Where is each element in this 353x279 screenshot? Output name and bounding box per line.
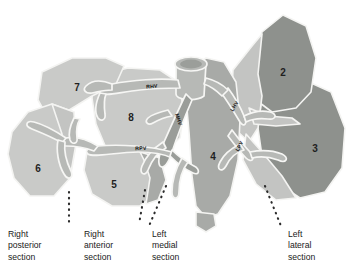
- right-portal-vein-label: RPV: [135, 145, 147, 152]
- segment-6-shape: [8, 104, 76, 196]
- segment-label-5: 5: [111, 179, 117, 190]
- liver-anatomy-figure: .lt { fill:#c9cac8; stroke:#f4f4f2; stro…: [0, 0, 353, 279]
- segment-label-7: 7: [74, 82, 80, 93]
- caption-left-medial-section: Left medial section: [152, 229, 179, 263]
- segment-label-3: 3: [312, 143, 318, 154]
- segment-label-8: 8: [128, 112, 134, 123]
- caption-left-lateral-section: Left lateral section: [288, 229, 315, 263]
- caption-right-anterior-section: Right anterior section: [84, 229, 113, 263]
- right-hepatic-vein-label: RHV: [146, 83, 158, 90]
- segment-label-6: 6: [35, 163, 41, 174]
- segment-label-4: 4: [210, 151, 216, 162]
- caption-right-posterior-section: Right posterior section: [8, 229, 41, 263]
- inferior-vena-cava: [175, 57, 207, 100]
- segment-label-2: 2: [280, 67, 286, 78]
